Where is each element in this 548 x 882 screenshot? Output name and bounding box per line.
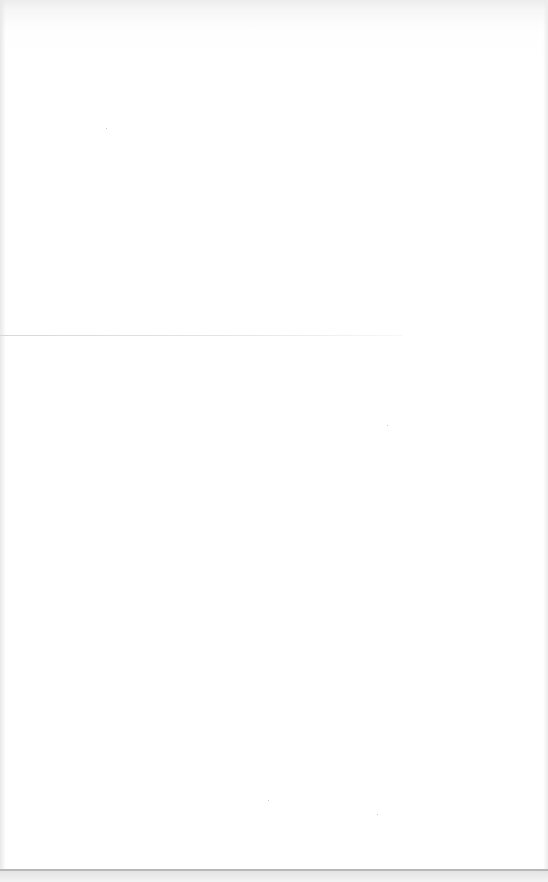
scan-speck: [106, 128, 107, 129]
scan-speck: [268, 800, 269, 801]
scan-speck: [387, 425, 388, 426]
page-bottom-margin: [0, 871, 548, 882]
scan-speck: [377, 814, 378, 815]
horizontal-rule: [0, 335, 402, 336]
page-right-edge-shadow: [543, 0, 548, 882]
page-left-edge-shadow: [0, 0, 6, 882]
blank-scanned-page: [0, 0, 548, 882]
